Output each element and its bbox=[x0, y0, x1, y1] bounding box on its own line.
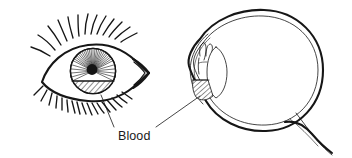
optic-nerve bbox=[285, 113, 332, 155]
zonule-fibers bbox=[199, 62, 207, 63]
eye-hyphema-diagram: Blood bbox=[0, 0, 352, 158]
eyeball-cross-section bbox=[189, 10, 332, 155]
external-eye-front-view bbox=[31, 14, 149, 115]
leader-line-right bbox=[156, 96, 200, 127]
diagram-canvas: Blood bbox=[0, 0, 352, 158]
blood-label: Blood bbox=[118, 129, 150, 143]
pupil bbox=[87, 64, 98, 75]
